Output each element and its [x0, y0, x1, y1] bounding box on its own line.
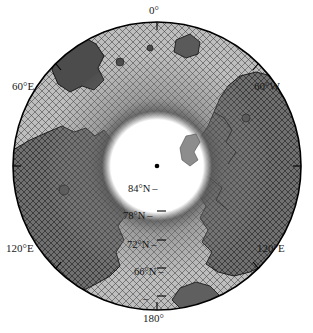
latitude-tick-60n: –: [143, 294, 148, 305]
polar-map-canvas: [0, 0, 313, 333]
latitude-tick-78n: –: [147, 211, 152, 222]
latitude-label-66n: 66°N–: [134, 267, 164, 278]
latitude-tick-84n: –: [152, 184, 157, 195]
latitude-tick-72n: –: [151, 240, 156, 251]
arctic-polar-map-figure: 0° 60°E 60°W 120°E 120°E 180° 84°N– 78°N…: [0, 0, 313, 333]
latitude-label-84n: 84°N–: [128, 184, 158, 195]
latitude-label-84n-text: 84°N: [128, 183, 150, 194]
latitude-label-72n-text: 72°N: [127, 239, 149, 250]
longitude-label-0: 0°: [149, 5, 159, 16]
latitude-label-60n: –: [141, 294, 148, 305]
north-pole-marker: [155, 164, 160, 169]
longitude-label-60w: 60°W: [254, 81, 280, 92]
longitude-label-60e: 60°E: [12, 81, 34, 92]
latitude-label-66n-text: 66°N: [134, 266, 156, 277]
longitude-label-120e-right: 120°E: [257, 243, 285, 254]
longitude-label-120e-left: 120°E: [6, 243, 34, 254]
latitude-label-78n-text: 78°N: [123, 210, 145, 221]
latitude-label-78n: 78°N–: [123, 211, 153, 222]
latitude-label-72n: 72°N–: [127, 240, 157, 251]
longitude-label-180: 180°: [143, 313, 164, 324]
latitude-tick-66n: –: [158, 267, 163, 278]
